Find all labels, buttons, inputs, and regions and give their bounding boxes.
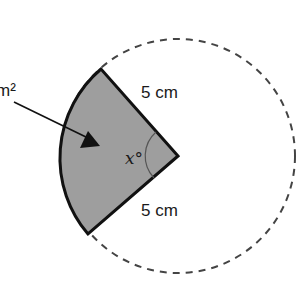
radius-label-top: 5 cm — [141, 83, 178, 102]
area-label: m² — [0, 81, 16, 100]
radius-label-bottom: 5 cm — [141, 201, 178, 220]
angle-label: x° — [125, 148, 143, 168]
sector-diagram: m² 5 cm x° 5 cm — [0, 0, 296, 295]
